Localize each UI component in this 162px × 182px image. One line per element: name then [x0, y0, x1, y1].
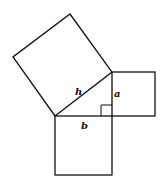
right-angle-marker [101, 105, 112, 116]
label-h: h [75, 86, 82, 97]
label-b: b [81, 120, 88, 131]
hypotenuse-square [13, 14, 112, 116]
pythagoras-diagram: h a b [0, 0, 162, 182]
label-a: a [114, 88, 120, 99]
